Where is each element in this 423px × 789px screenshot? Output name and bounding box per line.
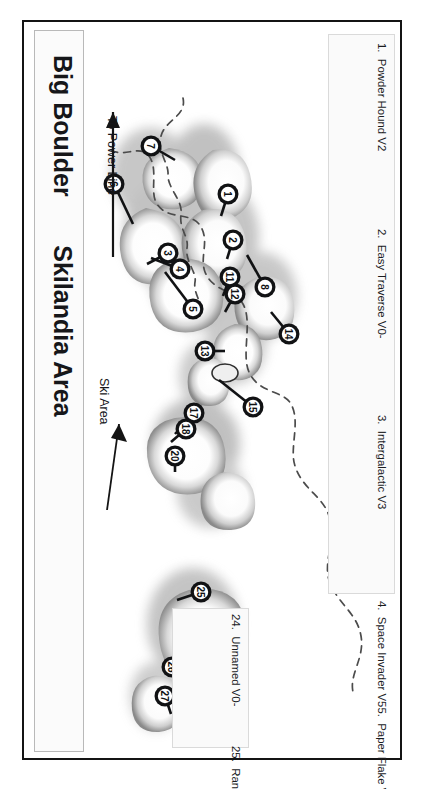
legend-item: 25. Randy's Rage V0+ (227, 746, 244, 789)
route-marker-number: 25 (195, 586, 206, 598)
route-marker-number: 20 (169, 450, 180, 462)
route-legend-aux: 24. Unnamed V0-25. Randy's Rage V0+26. U… (172, 608, 249, 748)
route-marker-12: 12 (225, 284, 246, 305)
route-marker-number: 27 (159, 690, 170, 702)
route-marker-number: 3 (162, 250, 173, 256)
legend-item: 3. Intergalactic V3 (375, 415, 390, 601)
ski-area-label: Ski Area (97, 378, 111, 425)
map-title: Big Boulder Skilandia Area (48, 55, 77, 417)
legend-item: 4. Space Invader V5 (375, 601, 390, 707)
route-marker-number: 1 (222, 191, 233, 197)
route-marker-13: 13 (195, 341, 216, 362)
route-marker-number: 17 (188, 407, 199, 419)
route-marker-1: 1 (218, 184, 239, 205)
route-marker-number: 4 (174, 266, 185, 272)
route-marker-5: 5 (183, 299, 204, 320)
route-marker-number: 2 (227, 237, 238, 243)
route-marker-number: 12 (229, 288, 240, 300)
power-line-direction: To Power Line (85, 80, 145, 260)
map-stage-rotated: 12345678111213141517182024252627 To Powe… (26, 24, 401, 759)
legend-item: 24. Unnamed V0- (227, 614, 244, 746)
route-marker-25: 25 (191, 582, 212, 603)
legend-item: 5. Paper Flake V0- (375, 707, 390, 789)
route-marker-number: 8 (259, 284, 270, 290)
route-marker-8: 8 (255, 277, 276, 298)
route-marker-2: 2 (223, 230, 244, 251)
map-title-panel: Big Boulder Skilandia Area (34, 30, 84, 752)
route-legend-main-list: 1. Powder Hound V22. Easy Traverse V0-3.… (375, 43, 390, 789)
route-marker-number: 5 (187, 306, 198, 312)
route-marker-number: 14 (283, 328, 294, 340)
route-legend-aux-list: 24. Unnamed V0-25. Randy's Rage V0+26. U… (227, 614, 244, 789)
map-page: 12345678111213141517182024252627 To Powe… (0, 0, 423, 789)
route-marker-4: 4 (170, 259, 191, 280)
route-marker-number: 11 (224, 272, 235, 283)
route-legend-main: 1. Powder Hound V22. Easy Traverse V0-3.… (328, 34, 395, 594)
route-marker-number: 7 (145, 143, 156, 149)
map-card-frame: 12345678111213141517182024252627 To Powe… (22, 20, 402, 760)
legend-item: 2. Easy Traverse V0- (375, 229, 390, 415)
route-marker-number: 13 (199, 345, 210, 357)
route-marker-number: 18 (180, 423, 191, 435)
route-marker-18: 18 (176, 419, 197, 440)
route-marker-20: 20 (165, 446, 186, 467)
route-marker-15: 15 (243, 397, 264, 418)
route-marker-14: 14 (279, 324, 300, 345)
power-line-label: To Power Line (105, 116, 119, 195)
route-marker-number: 15 (247, 401, 258, 413)
legend-item: 1. Powder Hound V2 (375, 43, 390, 229)
